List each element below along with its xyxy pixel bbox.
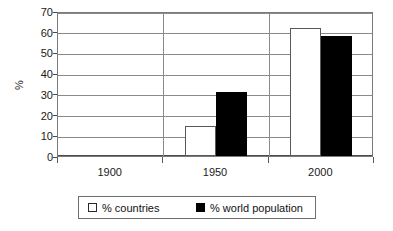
black-square-icon: [196, 203, 205, 212]
category-divider: [163, 13, 164, 156]
x-tick-mark: [268, 157, 269, 163]
bar-chart: % 010203040506070 % countries % world po…: [0, 0, 393, 231]
y-tick-label: 0: [27, 151, 53, 163]
y-tick-label: 10: [27, 130, 53, 142]
x-axis-label-1950: 1950: [203, 166, 227, 178]
bar-1950-population: [216, 92, 247, 156]
y-tick-label: 60: [27, 27, 53, 39]
y-tick-label: 30: [27, 89, 53, 101]
gridline: [58, 13, 372, 14]
x-axis-tick-marks: [57, 157, 373, 164]
y-tick-label: 50: [27, 47, 53, 59]
bar-2000-population: [321, 36, 352, 156]
legend-entry-countries: % countries: [88, 197, 159, 218]
gridline: [58, 33, 372, 34]
x-axis-label-1900: 1900: [97, 166, 121, 178]
bar-1950-countries: [185, 126, 216, 156]
y-tick-label: 70: [27, 6, 53, 18]
x-tick-mark: [57, 157, 58, 163]
legend-label-population: % world population: [210, 202, 303, 214]
x-tick-mark: [373, 157, 374, 163]
legend-label-countries: % countries: [102, 202, 159, 214]
bar-2000-countries: [290, 28, 321, 156]
category-divider: [269, 13, 270, 156]
legend-entry-population: % world population: [196, 197, 303, 218]
white-square-icon: [88, 203, 97, 212]
y-tick-label: 20: [27, 110, 53, 122]
x-axis-label-2000: 2000: [308, 166, 332, 178]
plot-area: [57, 12, 373, 157]
y-axis-ticks: 010203040506070: [25, 12, 53, 157]
y-tick-label: 40: [27, 68, 53, 80]
x-tick-mark: [162, 157, 163, 163]
chart-legend: % countries % world population: [78, 196, 316, 219]
